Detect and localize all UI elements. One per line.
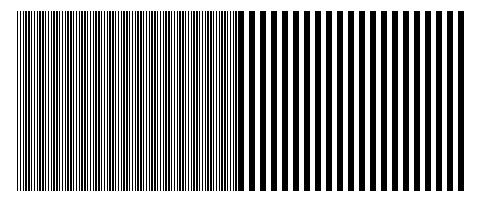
grating-bar [213,11,214,191]
low-frequency-grating-region [238,0,468,203]
high-frequency-grating-region [17,0,238,203]
grating-bar [48,11,49,191]
grating-bar [59,11,60,191]
grating-bar [304,11,310,191]
grating-bars-low-frequency-region [238,0,468,203]
grating-bar [337,11,343,191]
grating-bar [207,11,208,191]
grating-bar [210,11,211,191]
grating-bar [20,11,21,191]
grating-bar [39,11,40,191]
grating-bar [154,11,155,191]
grating-bar [126,11,127,191]
grating-bar [370,11,376,191]
grating-bar [109,11,110,191]
grating-bar [233,11,234,191]
grating-bar [221,11,222,191]
grating-bar [436,11,442,191]
grating-bar [174,11,175,191]
grating-bar [425,11,431,191]
grating-bar [179,11,180,191]
grating-bar [185,11,186,191]
grating-bar [123,11,124,191]
grating-bar [260,11,266,191]
grating-bar [121,11,122,191]
grating-bar [160,11,161,191]
grating-bar [271,11,277,191]
grating-figure-canvas [0,0,485,203]
grating-bar [53,11,54,191]
grating-bar [81,11,82,191]
grating-bar [177,11,178,191]
grating-bar [90,11,91,191]
grating-bar [45,11,46,191]
grating-bar [216,11,217,191]
grating-bar [84,11,85,191]
grating-bar [129,11,130,191]
grating-bars-high-frequency-region [17,0,238,203]
grating-bar [98,11,99,191]
grating-bar [140,11,141,191]
grating-bar [171,11,172,191]
grating-bar [182,11,183,191]
grating-bar [315,11,321,191]
grating-bar [34,11,35,191]
grating-bar [151,11,152,191]
grating-bar [93,11,94,191]
grating-bar [146,11,147,191]
grating-bar [235,11,236,191]
grating-bar [293,11,299,191]
grating-bar [157,11,158,191]
grating-bar [202,11,203,191]
grating-bar [458,11,464,191]
grating-bar [414,11,420,191]
grating-bar [326,11,332,191]
grating-bar [67,11,68,191]
grating-bar [101,11,102,191]
grating-bar [381,11,387,191]
grating-bar [23,11,24,191]
grating-bar [219,11,220,191]
grating-bar [143,11,144,191]
grating-bar [51,11,52,191]
grating-bar [135,11,136,191]
grating-bar [62,11,63,191]
grating-bar [79,11,80,191]
grating-bar [95,11,96,191]
grating-bar [104,11,105,191]
grating-bar [168,11,169,191]
grating-bar [65,11,66,191]
grating-bar [25,11,26,191]
grating-bar [73,11,74,191]
grating-bar [132,11,133,191]
grating-bar [224,11,225,191]
grating-bar [149,11,150,191]
grating-bar [70,11,71,191]
grating-bar [199,11,200,191]
grating-bar [163,11,164,191]
grating-bar [403,11,409,191]
grating-bar [107,11,108,191]
grating-bar [76,11,77,191]
grating-bar [359,11,365,191]
grating-bar [31,11,32,191]
grating-bar [196,11,197,191]
grating-bar [191,11,192,191]
grating-bar [205,11,206,191]
grating-bar [56,11,57,191]
grating-bar [112,11,113,191]
grating-bar [188,11,189,191]
grating-bar [249,11,255,191]
grating-bar [447,11,453,191]
grating-bar [137,11,138,191]
grating-bar [42,11,43,191]
grating-bar [118,11,119,191]
grating-bar [230,11,231,191]
grating-bar [87,11,88,191]
grating-bar [115,11,116,191]
grating-bar [37,11,38,191]
grating-bar [17,11,18,191]
grating-bar [165,11,166,191]
grating-bar [392,11,398,191]
grating-bar [282,11,288,191]
